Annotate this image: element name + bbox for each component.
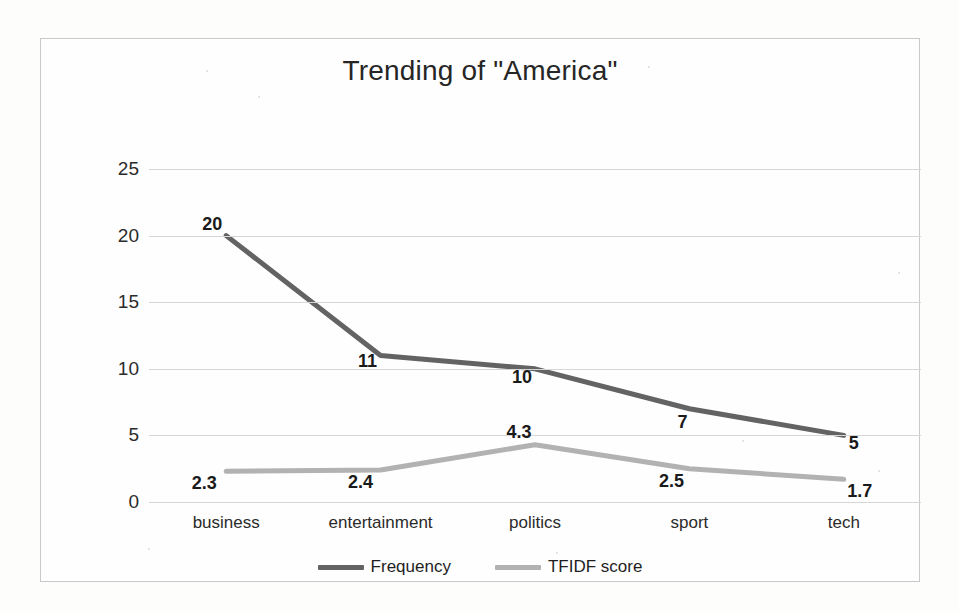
gridline (149, 502, 921, 503)
chart-legend: FrequencyTFIDF score (41, 557, 919, 577)
gridline (149, 435, 921, 436)
legend-label: Frequency (371, 557, 451, 577)
series-line (226, 445, 844, 480)
data-point-label: 2.4 (348, 472, 373, 493)
gridline (149, 369, 921, 370)
legend-line-swatch (318, 565, 364, 570)
legend-item[interactable]: TFIDF score (495, 557, 642, 577)
data-point-label: 7 (677, 411, 687, 432)
y-axis-tick-label: 15 (95, 291, 139, 313)
y-axis-tick-label: 20 (95, 225, 139, 247)
gridline (149, 302, 921, 303)
legend-item[interactable]: Frequency (318, 557, 451, 577)
y-axis: 0510152025 (87, 169, 139, 502)
legend-line-swatch (495, 565, 541, 570)
y-axis-tick-label: 0 (95, 491, 139, 513)
y-axis-tick-label: 5 (95, 424, 139, 446)
data-point-label: 20 (202, 213, 222, 234)
x-axis-tick-label: business (193, 513, 260, 533)
x-axis-tick-label: tech (828, 513, 860, 533)
y-axis-tick-label: 10 (95, 358, 139, 380)
gridline (149, 236, 921, 237)
x-axis-tick-label: sport (670, 513, 708, 533)
data-point-label: 1.7 (847, 481, 872, 502)
x-axis-tick-label: politics (509, 513, 561, 533)
scan-artifact (648, 66, 650, 68)
scan-artifact (742, 440, 744, 442)
data-point-label: 11 (358, 351, 377, 372)
data-point-label: 2.5 (659, 470, 684, 491)
series-line (226, 236, 844, 436)
x-axis: businessentertainmentpoliticssporttech (149, 513, 921, 543)
gridline (149, 169, 921, 170)
data-point-label: 10 (512, 366, 532, 387)
x-axis-tick-label: entertainment (329, 513, 433, 533)
scan-artifact (556, 552, 558, 554)
y-axis-tick-label: 25 (95, 158, 139, 180)
scan-artifact (206, 70, 208, 72)
data-point-label: 4.3 (506, 421, 531, 442)
data-point-label: 2.3 (192, 473, 217, 494)
plot-area: 201110752.32.44.32.51.7 (149, 169, 921, 502)
scan-artifact (148, 548, 150, 550)
scan-artifact (878, 470, 880, 472)
chart-container: Trending of "America" 0510152025 2011107… (40, 38, 920, 582)
scan-artifact (898, 272, 900, 274)
legend-label: TFIDF score (548, 557, 642, 577)
scan-artifact (258, 96, 260, 98)
data-point-label: 5 (849, 433, 859, 454)
chart-title: Trending of "America" (41, 55, 919, 87)
series-lines (149, 169, 921, 502)
